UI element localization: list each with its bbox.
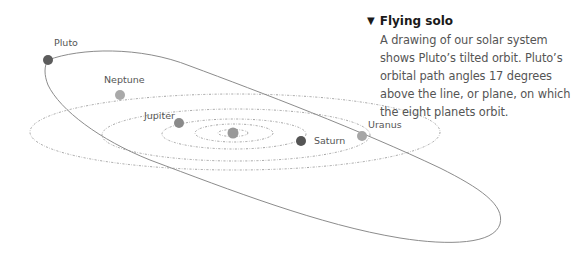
triangle-down-icon: ▼ [367, 13, 375, 29]
caption-title: Flying solo [380, 13, 453, 29]
sun-icon [228, 128, 239, 139]
saturn-dot-icon [296, 136, 306, 146]
caption: ▼ Flying solo A drawing of our solar sys… [367, 13, 582, 121]
jupiter-label: Jupiter [143, 110, 175, 121]
pluto-dot-icon [43, 55, 53, 65]
caption-body: A drawing of our solar system shows Plut… [380, 31, 582, 121]
pluto-label: Pluto [54, 37, 78, 48]
caption-heading: ▼ Flying solo [367, 13, 582, 29]
saturn-label: Saturn [314, 135, 345, 146]
jupiter-dot-icon [174, 118, 184, 128]
uranus-dot-icon [357, 131, 367, 141]
neptune-dot-icon [115, 90, 125, 100]
neptune-label: Neptune [104, 74, 145, 85]
